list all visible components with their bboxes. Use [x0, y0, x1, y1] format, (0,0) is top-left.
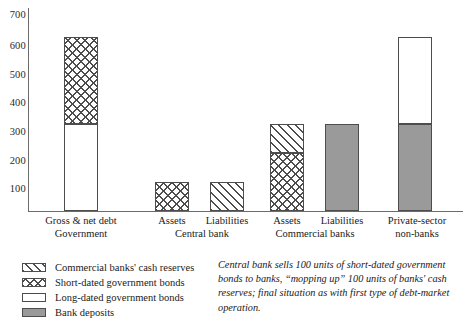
chart-legend: Commercial banks' cash reserves Short-da… [22, 260, 212, 320]
legend-label-cash-reserves: Commercial banks' cash reserves [55, 262, 194, 273]
bar-segment-short-dated-bonds [155, 182, 189, 211]
bar-commercial-banks-liabilities [325, 124, 359, 211]
x-label-gross-net-debt: Gross & net debt [21, 214, 141, 227]
legend-label-long-dated-bonds: Long-dated government bonds [55, 292, 184, 303]
x-label-commercial-banks-liabilities: Liabilities [311, 214, 373, 227]
x-group-central-bank: Central bank [145, 227, 259, 240]
bar-central-bank-assets [155, 182, 189, 211]
bar-segment-short-dated-bonds [64, 37, 98, 124]
bars-layer [0, 0, 471, 211]
legend-swatch-solid-gray-icon [22, 308, 46, 317]
legend-item-cash-reserves: Commercial banks' cash reserves [22, 260, 212, 274]
x-group-non-banks: non-banks [368, 227, 466, 240]
x-group-government: Government [21, 227, 141, 240]
bar-commercial-banks-assets [270, 124, 304, 211]
bar-segment-short-dated-bonds [270, 153, 304, 211]
x-axis-line [28, 211, 463, 212]
x-label-commercial-banks-assets: Assets [257, 214, 317, 227]
bar-segment-bank-deposits [325, 124, 359, 211]
bar-segment-cash-reserves [270, 124, 304, 153]
bar-segment-cash-reserves [210, 182, 244, 211]
bar-central-bank-liabilities [210, 182, 244, 211]
legend-swatch-cross-hatch-icon [22, 278, 46, 287]
chart-caption: Central bank sells 100 units of short-da… [218, 258, 466, 315]
x-label-private-sector: Private-sector [368, 214, 466, 227]
legend-swatch-white-icon [22, 293, 46, 302]
legend-swatch-diagonal-hatch-icon [22, 263, 46, 272]
bar-segment-bank-deposits [398, 124, 432, 211]
bar-segment-long-dated-bonds [398, 37, 432, 124]
legend-item-long-dated-bonds: Long-dated government bonds [22, 290, 212, 304]
chart-plot-area: 700 600 500 400 300 200 100 [0, 0, 471, 255]
legend-item-short-dated-bonds: Short-dated government bonds [22, 275, 212, 289]
legend-item-bank-deposits: Bank deposits [22, 305, 212, 319]
x-group-commercial-banks: Commercial banks [258, 227, 372, 240]
x-label-central-bank-liabilities: Liabilities [196, 214, 258, 227]
x-axis-category-labels: Gross & net debt Government Assets Liabi… [0, 214, 471, 254]
bar-gross-net-debt [64, 37, 98, 211]
x-label-central-bank-assets: Assets [142, 214, 202, 227]
bar-segment-long-dated-bonds [64, 124, 98, 211]
legend-label-short-dated-bonds: Short-dated government bonds [55, 277, 184, 288]
legend-label-bank-deposits: Bank deposits [55, 307, 114, 318]
chart-footer: Commercial banks' cash reserves Short-da… [0, 258, 471, 321]
bar-private-sector-non-banks [398, 37, 432, 211]
